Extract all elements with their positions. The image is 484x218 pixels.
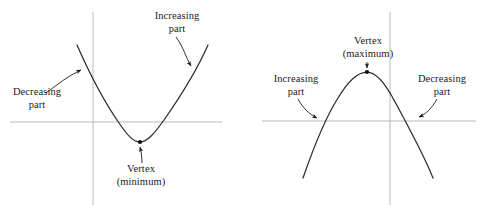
figure-root: Decreasing part Increasing part Vertex (… (0, 0, 484, 218)
right-vertex-point (365, 70, 369, 74)
left-decreasing-part-label-line1: Decreasing (4, 86, 70, 99)
right-increasing-part-label-line2: part (263, 86, 329, 99)
parabola-figure-canvas (0, 0, 484, 218)
left-vertex-point (138, 140, 142, 144)
left-decreasing-part-label: Decreasing part (4, 86, 70, 111)
right-decreasing-leader (419, 99, 437, 117)
left-vertex-leader (140, 147, 142, 163)
upward-parabola-curve (77, 45, 208, 142)
left-vertex-label-line1: Vertex (97, 163, 185, 176)
right-increasing-leader (298, 99, 317, 118)
left-vertex-label-line2: (minimum) (97, 176, 185, 189)
right-decreasing-part-label-line2: part (407, 86, 477, 99)
left-increasing-part-label-line2: part (144, 23, 210, 36)
left-vertex-label: Vertex (minimum) (97, 163, 185, 188)
right-vertex-label: Vertex (maximum) (323, 35, 413, 60)
right-increasing-part-label: Increasing part (263, 73, 329, 98)
left-increasing-part-label: Increasing part (144, 10, 210, 35)
right-decreasing-part-label-line1: Decreasing (407, 73, 477, 86)
left-increasing-part-label-line1: Increasing (144, 10, 210, 23)
right-decreasing-part-label: Decreasing part (407, 73, 477, 98)
left-increasing-leader (176, 37, 191, 66)
right-increasing-part-label-line1: Increasing (263, 73, 329, 86)
right-vertex-label-line1: Vertex (323, 35, 413, 48)
right-vertex-label-line2: (maximum) (323, 48, 413, 61)
left-decreasing-part-label-line2: part (4, 99, 70, 112)
